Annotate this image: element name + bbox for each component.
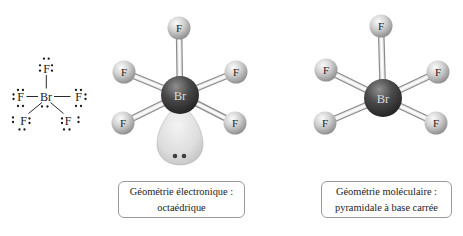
lewis-f-bottomright-label: F [65,114,72,128]
bromine-label: Br [377,92,390,106]
fluorine-label: F [323,64,329,76]
lewis-f-top-label: F [43,62,50,76]
lewis-f-bottomleft-label: F [20,114,27,128]
br-lone-pair-dot [41,105,43,107]
lewis-f-left-label: F [17,90,24,104]
fluorine-label: F [120,117,126,129]
figure: F F Br F F F [0,0,463,236]
molecular-geometry-model: Br F F F F F [298,8,463,170]
fluorine-label: F [121,66,127,78]
electron-geometry-caption: Géométrie électronique : octaédrique [118,181,245,218]
caption-line: octaédrique [157,200,205,215]
caption-line: pyramidale à base carrée [335,200,438,215]
caption-line: Géométrie moléculaire : [336,184,437,199]
fluorine-label: F [322,117,328,129]
caption-line: Géométrie électronique : [130,184,233,199]
fluorine-label: F [232,117,238,129]
fluorine-label: F [433,117,439,129]
fluorine-label: F [176,22,182,34]
lewis-structure: F F Br F F F [0,50,95,140]
bromine-label: Br [174,89,187,103]
fluorine-label: F [435,66,441,78]
fluorine-label: F [378,20,384,32]
lewis-br-label: Br [40,90,52,104]
bond-bottom-right [51,103,64,114]
electron-geometry-model: Br F F F F F [100,8,260,170]
lewis-f-right-label: F [75,90,82,104]
bond-bottom-left [29,103,43,114]
fluorine-label: F [233,66,239,78]
br-lone-pair-dot [46,105,48,107]
molecular-geometry-caption: Géométrie moléculaire : pyramidale à bas… [321,181,452,218]
